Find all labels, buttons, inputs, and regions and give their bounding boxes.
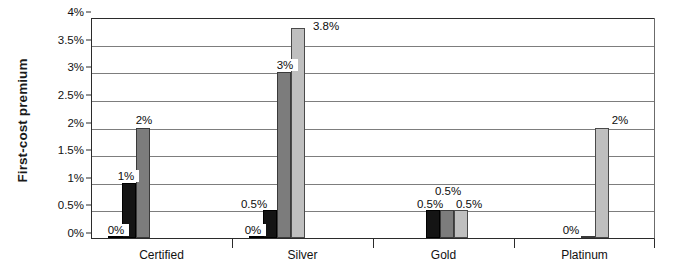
bar-gold-series-1[interactable] — [426, 210, 440, 238]
bar-silver-series-0[interactable] — [249, 236, 263, 238]
x-tick-mark-1 — [232, 239, 233, 248]
bar-platinum-series-2[interactable] — [581, 236, 595, 238]
bar-label-gold-series-2: 0.5% — [430, 185, 466, 197]
y-tick-label-4: 4% — [67, 6, 84, 18]
y-tick-label-1: 1% — [67, 172, 84, 184]
y-axis-tick-labels: 4% 3.5% 3% 2.5% 2% 1.5% 1% 0.5% 0% — [44, 12, 91, 239]
y-tick-label-3-5: 3.5% — [58, 34, 84, 46]
bar-platinum-series-3[interactable] — [595, 128, 609, 239]
y-tick-label-0-5: 0.5% — [58, 199, 84, 211]
bar-label-gold-series-3: 0.5% — [451, 198, 487, 210]
bar-label-certified-series-2: 2% — [131, 114, 157, 126]
x-tick-mark-2 — [373, 239, 374, 248]
y-tick-label-1-5: 1.5% — [58, 144, 84, 156]
x-axis-category-labels: Certified Silver Gold Platinum — [91, 248, 655, 270]
bar-label-silver-series-2: 3% — [272, 59, 298, 71]
y-axis-title: First-cost premium — [0, 0, 44, 240]
bar-label-silver-series-3: 3.8% — [308, 20, 344, 32]
x-cat-label-silver: Silver — [287, 248, 317, 262]
bar-certified-series-0[interactable] — [108, 236, 122, 238]
x-axis-ticks — [91, 239, 655, 248]
x-cat-label-certified: Certified — [139, 248, 184, 262]
bar-silver-series-2[interactable] — [277, 72, 291, 238]
bar-label-silver-series-0: 0% — [240, 224, 266, 236]
x-tick-mark-4 — [654, 239, 655, 248]
bar-label-gold-series-1: 0.5% — [412, 198, 448, 210]
bar-gold-series-2[interactable] — [440, 210, 454, 238]
y-tick-mark-4 — [86, 12, 91, 13]
x-tick-mark-3 — [514, 239, 515, 248]
bar-label-platinum-series-2: 0% — [558, 224, 584, 236]
y-tick-label-2: 2% — [67, 117, 84, 129]
bar-label-platinum-series-3: 2% — [607, 114, 633, 126]
x-cat-label-gold: Gold — [431, 248, 456, 262]
bar-label-certified-series-0: 0% — [103, 224, 129, 236]
y-tick-label-3: 3% — [67, 61, 84, 73]
bar-chart: First-cost premium 4% 3.5% 3% 2.5% 2% 1.… — [0, 0, 673, 275]
bar-label-silver-series-1: 0.5% — [236, 198, 272, 210]
bar-certified-series-2[interactable] — [136, 128, 150, 239]
plot-area: 0% 1% 2% 0% 0.5% 3% 3.8% 0.5% 0.5% 0.5% … — [91, 18, 655, 239]
bar-label-certified-series-1: 1% — [113, 170, 139, 182]
x-cat-label-platinum: Platinum — [561, 248, 608, 262]
bar-gold-series-3[interactable] — [454, 210, 468, 238]
y-tick-label-2-5: 2.5% — [58, 89, 84, 101]
bars-layer: 0% 1% 2% 0% 0.5% 3% 3.8% 0.5% 0.5% 0.5% … — [92, 18, 654, 238]
y-axis-title-text: First-cost premium — [15, 58, 30, 182]
y-tick-label-0: 0% — [67, 227, 84, 239]
